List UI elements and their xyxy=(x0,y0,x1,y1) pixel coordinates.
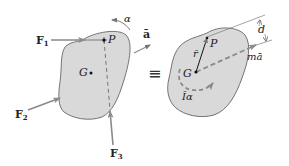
point-p-right xyxy=(206,37,209,40)
diagram-canvas xyxy=(0,0,289,166)
label-f3: F3 xyxy=(110,148,123,160)
label-f2: F2 xyxy=(15,109,28,121)
accel-arrow xyxy=(134,45,150,53)
label-m-a-bar: mā xyxy=(247,52,262,62)
force-arrow-f3 xyxy=(110,111,113,145)
label-g-right: G xyxy=(183,68,192,79)
point-g-right xyxy=(194,70,197,73)
label-g-left: G xyxy=(79,67,88,78)
rigid-body-left xyxy=(59,31,130,119)
label-a-bar: ā xyxy=(143,29,150,40)
point-g-left xyxy=(90,72,93,75)
force-arrow-f2 xyxy=(28,98,60,110)
label-f1: F1 xyxy=(36,35,49,47)
label-d: d xyxy=(258,24,265,35)
equivalence-symbol: ≡ xyxy=(148,66,161,82)
dimension-line-lower xyxy=(250,40,272,47)
label-r-bar: r̄ xyxy=(193,49,198,59)
label-p-right: P xyxy=(210,38,217,49)
label-alpha: α xyxy=(124,14,131,24)
label-p-left: P xyxy=(108,34,115,45)
label-i-alpha: Īα xyxy=(182,92,193,102)
